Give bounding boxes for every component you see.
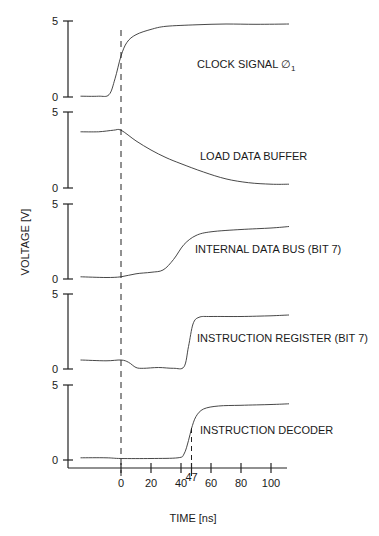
panel-5: 50INSTRUCTION DECODER bbox=[52, 379, 333, 468]
x-axis-label: TIME [ns] bbox=[169, 512, 216, 524]
y-tick-label: 5 bbox=[52, 106, 58, 118]
x-tick-label: 60 bbox=[205, 477, 217, 489]
signal-label: LOAD DATA BUFFER bbox=[200, 150, 307, 162]
y-tick-label: 0 bbox=[52, 91, 58, 103]
x-tick-label: 0 bbox=[118, 477, 124, 489]
y-tick-label: 0 bbox=[52, 182, 58, 194]
y-tick-label: 0 bbox=[52, 454, 58, 466]
y-tick-label: 5 bbox=[52, 288, 58, 300]
signal-label: INSTRUCTION DECODER bbox=[200, 424, 333, 436]
x-tick-label: 100 bbox=[262, 477, 280, 489]
signal-label: CLOCK SIGNAL ∅1 bbox=[197, 58, 296, 73]
panel-4: 50INSTRUCTION REGISTER (BIT 7) bbox=[52, 288, 368, 375]
y-axis-label: VOLTAGE [V] bbox=[19, 209, 31, 276]
panel-2: 50LOAD DATA BUFFER bbox=[52, 106, 307, 194]
signal-label: INTERNAL DATA BUS (BIT 7) bbox=[195, 243, 341, 255]
y-tick-label: 5 bbox=[52, 379, 58, 391]
x-tick-label: 80 bbox=[235, 477, 247, 489]
y-tick-label: 0 bbox=[52, 273, 58, 285]
panel-3: 50INTERNAL DATA BUS (BIT 7) bbox=[52, 198, 341, 285]
y-tick-label: 0 bbox=[52, 363, 58, 375]
x-tick-label: 20 bbox=[145, 477, 157, 489]
signal-label: INSTRUCTION REGISTER (BIT 7) bbox=[197, 332, 368, 344]
timing-diagram: 50CLOCK SIGNAL ∅150LOAD DATA BUFFER50INT… bbox=[0, 0, 379, 536]
y-tick-label: 5 bbox=[52, 198, 58, 210]
panel-1: 50CLOCK SIGNAL ∅1 bbox=[52, 15, 296, 103]
x-tick-label: 47 bbox=[185, 471, 197, 483]
y-tick-label: 5 bbox=[52, 15, 58, 27]
